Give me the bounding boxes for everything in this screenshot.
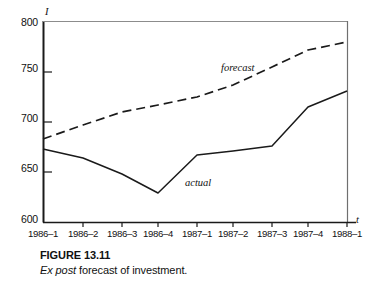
chart-svg xyxy=(0,0,383,240)
figure-caption-rest: forecast of investment. xyxy=(76,264,187,276)
chart-plot-area: 800 750 700 650 600 I t 1986–1 1986–2 19… xyxy=(0,0,383,240)
figure-13-11: 800 750 700 650 600 I t 1986–1 1986–2 19… xyxy=(0,0,383,292)
figure-caption: FIGURE 13.11 Ex post forecast of investm… xyxy=(40,249,370,277)
figure-caption-text: Ex post forecast of investment. xyxy=(40,263,370,277)
series-line-forecast xyxy=(43,42,347,139)
figure-number: FIGURE 13.11 xyxy=(40,249,370,262)
series-line-actual xyxy=(43,91,347,193)
figure-caption-italic: Ex post xyxy=(40,264,76,276)
